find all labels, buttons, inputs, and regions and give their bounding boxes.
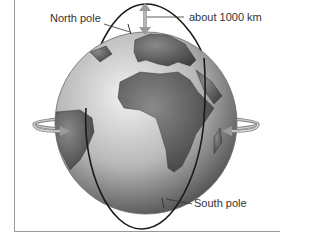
altitude-label: about 1000 km (189, 11, 262, 23)
earth-globe (54, 32, 237, 214)
altitude-arrow-icon (139, 3, 151, 35)
north-pole-label: North pole (50, 12, 101, 24)
south-pole-label: South pole (194, 197, 247, 209)
north-pole-axis-marker (128, 24, 131, 34)
